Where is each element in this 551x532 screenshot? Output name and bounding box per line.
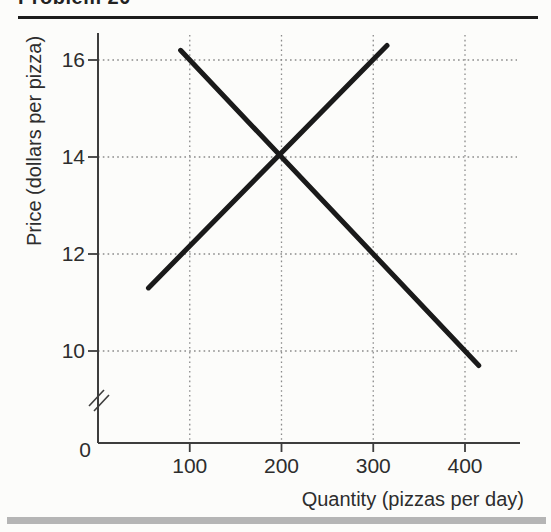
y-axis-label: Price (dollars per pizza) [23,36,45,246]
supply-curve [148,45,387,288]
supply-demand-chart: Quantity (pizzas per day) Price (dollars… [0,0,551,532]
y-tick-label-16: 16 [62,48,85,71]
bottom-bar [7,517,546,524]
y-tick-label-14: 14 [62,145,86,168]
x-axis-label: Quantity (pizzas per day) [302,488,524,510]
x-tick-label-200: 200 [264,454,299,477]
y-tick-label-10: 10 [62,339,85,362]
grid-layer [98,35,517,443]
x-tick-label-100: 100 [172,454,207,477]
origin-label: 0 [79,438,91,461]
page: Problem 20 Quantity (pizzas per day) Pri… [0,0,551,532]
axis-layer [88,33,520,452]
x-tick-label-400: 400 [447,454,482,477]
series-layer [148,45,478,365]
y-tick-label-12: 12 [62,242,85,265]
x-tick-label-300: 300 [356,454,391,477]
